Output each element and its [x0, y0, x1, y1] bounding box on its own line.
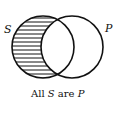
label-p: P	[104, 22, 113, 35]
caption: All S are P	[30, 88, 85, 99]
venn-diagram: S P All S are P	[0, 0, 137, 137]
label-s: S	[4, 23, 12, 36]
